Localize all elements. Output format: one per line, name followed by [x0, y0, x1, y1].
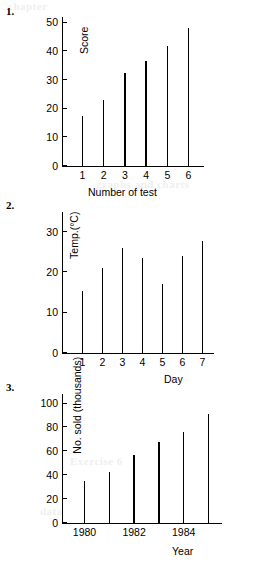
- exercise-3-number: 3.: [6, 382, 14, 393]
- chart-3-y-tick-label: 0: [52, 517, 58, 528]
- chart-2-bar: [182, 256, 183, 353]
- chart-3-y-tick-label: 60: [46, 446, 58, 457]
- chart-1-bar: [167, 46, 168, 166]
- chart-3-bar: [109, 472, 110, 523]
- chart-3-bar: [158, 442, 159, 523]
- chart-1-y-tick-label: 40: [46, 46, 58, 57]
- chart-1-y-axis: [62, 17, 63, 167]
- chart-3-bar: [183, 432, 184, 523]
- chart-3-x-tick-label: 1984: [172, 527, 195, 538]
- chart-3-y-tick: 80: [63, 426, 67, 427]
- chart-3-y-tick: 0: [63, 522, 67, 523]
- chart-3-y-tick: 20: [63, 498, 67, 499]
- chart-2-x-axis: [62, 353, 214, 354]
- chart-3-y-tick-label: 40: [46, 469, 58, 480]
- chart-1-x-tick-label: 1: [80, 170, 86, 181]
- exercise-2: 2. Temp.(°C) Day 01020301234567: [0, 200, 264, 380]
- chart-3-bar: [84, 481, 85, 523]
- chart-1-y-tick-label: 10: [46, 132, 58, 143]
- chart-2-x-tick-label: 6: [180, 357, 186, 368]
- chart-2: Temp.(°C) Day 01020301234567: [62, 212, 214, 354]
- chart-3-x-axis: [62, 523, 222, 524]
- chart-2-y-axis-label: Temp.(°C): [69, 183, 80, 288]
- chart-1-y-tick: 30: [63, 79, 67, 80]
- chart-2-x-tick-label: 2: [100, 357, 106, 368]
- chart-1-x-tick-label: 2: [101, 170, 107, 181]
- chart-1-x-axis: [62, 166, 204, 167]
- chart-1-x-tick-label: 3: [122, 170, 128, 181]
- chart-3-y-tick: 40: [63, 474, 67, 475]
- chart-3-y-axis: [62, 394, 63, 524]
- chart-2-y-tick-label: 20: [46, 267, 58, 278]
- chart-3-y-tick-label: 80: [46, 422, 58, 433]
- chart-1-y-tick: 40: [63, 50, 67, 51]
- chart-2-y-tick: 10: [63, 312, 67, 313]
- chart-1-y-tick: 0: [63, 165, 67, 166]
- chart-3-y-tick-label: 20: [46, 493, 58, 504]
- chart-3-x-tick-label: 1980: [73, 527, 96, 538]
- chart-1-y-tick-label: 20: [46, 103, 58, 114]
- chart-1-y-tick-label: 50: [46, 17, 58, 28]
- chart-1-y-tick-label: 30: [46, 74, 58, 85]
- chart-2-bar: [82, 291, 83, 353]
- chart-2-x-tick-label: 7: [200, 357, 206, 368]
- chart-3-y-tick: 100: [63, 403, 67, 404]
- chart-2-y-tick: 20: [63, 271, 67, 272]
- chart-1-bar: [188, 28, 189, 166]
- chart-1-y-axis-label: Score: [79, 0, 90, 97]
- chart-2-x-tick-label: 5: [160, 357, 166, 368]
- chart-1-bar: [145, 61, 146, 166]
- chart-1-x-tick-label: 6: [186, 170, 192, 181]
- exercise-1-number: 1.: [6, 6, 14, 17]
- chart-3-y-tick-label: 100: [40, 398, 58, 409]
- chart-2-y-axis: [62, 212, 63, 354]
- chart-1-bar: [82, 116, 83, 166]
- chart-1: Score Number of test 01020304050123456: [62, 17, 204, 167]
- chart-2-bar: [202, 241, 203, 353]
- chart-1-x-axis-label: Number of test: [88, 187, 157, 198]
- chart-3-y-axis-label: No. sold (thousands): [72, 347, 83, 464]
- chart-2-y-tick-label: 10: [46, 307, 58, 318]
- exercise-1: 1. Score Number of test 0102030405012345…: [0, 6, 264, 196]
- chart-2-bar: [142, 258, 143, 353]
- chart-3-y-tick: 60: [63, 450, 67, 451]
- chart-2-x-tick-label: 4: [140, 357, 146, 368]
- chart-1-y-tick: 50: [63, 22, 67, 23]
- chart-1-y-tick: 20: [63, 108, 67, 109]
- chart-3-bar: [133, 455, 134, 523]
- exercise-3: 3. No. sold (thousands) Year 02040608010…: [0, 382, 264, 578]
- worksheet-page: chaptergraphs and chartsExercise 6data 1…: [0, 0, 264, 578]
- chart-1-y-tick-label: 0: [52, 160, 58, 171]
- chart-2-bar: [162, 284, 163, 353]
- chart-2-y-tick-label: 0: [52, 347, 58, 358]
- chart-2-y-tick: 30: [63, 231, 67, 232]
- chart-1-x-tick-label: 4: [143, 170, 149, 181]
- chart-2-y-tick-label: 30: [46, 226, 58, 237]
- chart-1-x-tick-label: 5: [164, 170, 170, 181]
- chart-2-x-tick-label: 3: [120, 357, 126, 368]
- chart-3: No. sold (thousands) Year 02040608010019…: [62, 394, 222, 524]
- chart-3-x-axis-label: Year: [172, 546, 193, 557]
- chart-2-bar: [102, 268, 103, 353]
- chart-1-bar: [124, 73, 125, 166]
- chart-2-bar: [122, 248, 123, 353]
- chart-2-y-tick: 0: [63, 352, 67, 353]
- chart-1-bar: [103, 100, 104, 166]
- chart-3-x-tick-label: 1982: [122, 527, 145, 538]
- chart-1-y-tick: 10: [63, 136, 67, 137]
- chart-3-bar: [208, 414, 209, 523]
- exercise-2-number: 2.: [6, 200, 14, 211]
